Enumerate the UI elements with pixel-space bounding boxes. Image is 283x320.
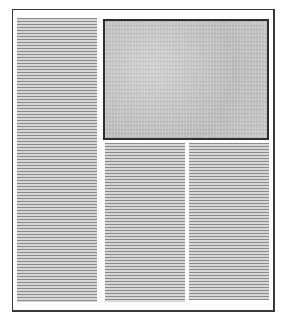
text-column-left: Text column (full height) bbox=[17, 18, 97, 302]
text-column-right-label: Text column bbox=[189, 143, 190, 144]
text-column-left-label: Text column (full height) bbox=[17, 18, 18, 19]
text-column-right: Text column bbox=[189, 143, 269, 300]
image-block: Image block bbox=[103, 19, 269, 140]
text-column-middle: Text column bbox=[105, 143, 185, 302]
image-block-label: Image block bbox=[105, 21, 106, 22]
text-column-middle-label: Text column bbox=[105, 143, 106, 144]
